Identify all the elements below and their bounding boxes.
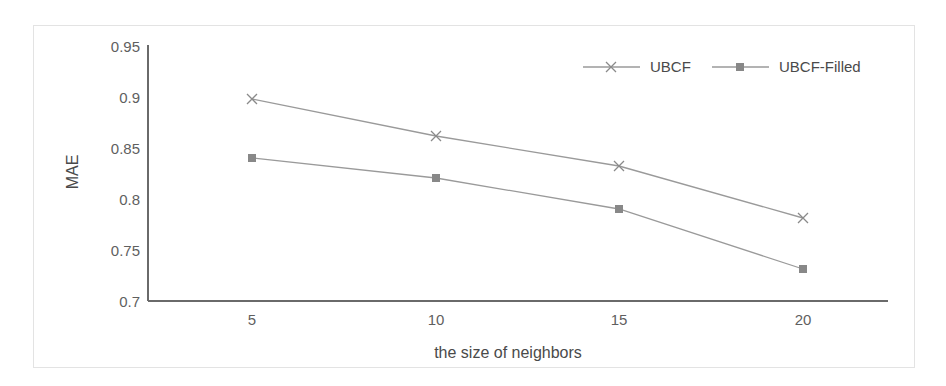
legend-entry-ubcf[interactable]: UBCF xyxy=(583,58,691,75)
x-tick-label-15: 15 xyxy=(611,311,628,328)
y-tick-label-0.9: 0.9 xyxy=(119,89,140,106)
series-ubcf-filled-markers xyxy=(248,154,807,273)
series-ubcf-line xyxy=(252,99,803,218)
y-tick-label-0.95: 0.95 xyxy=(111,38,140,55)
y-axis-title: MAE xyxy=(64,155,81,190)
y-tick-label-0.8: 0.8 xyxy=(119,191,140,208)
legend-marker-square-icon xyxy=(736,63,744,71)
figure-container: 0.95 0.9 0.85 0.8 0.75 0.7 5 10 15 20 MA… xyxy=(0,0,946,386)
x-tick-labels: 5 10 15 20 xyxy=(248,311,812,328)
series-ubcf-filled-line xyxy=(252,158,803,269)
y-tick-label-0.85: 0.85 xyxy=(111,140,140,157)
series-ubcf-filled xyxy=(248,154,807,273)
series-ubcf xyxy=(247,94,808,223)
series-ubcf-markers xyxy=(247,94,808,223)
marker-x-5 xyxy=(247,94,257,104)
chart-legend: UBCF UBCF-Filled xyxy=(583,58,861,75)
x-tick-label-5: 5 xyxy=(248,311,256,328)
legend-label-ubcf: UBCF xyxy=(650,58,691,75)
legend-label-ubcf-filled: UBCF-Filled xyxy=(779,58,861,75)
marker-square-20 xyxy=(799,265,807,273)
x-axis-title: the size of neighbors xyxy=(434,344,582,361)
x-tick-label-10: 10 xyxy=(428,311,445,328)
y-tick-labels: 0.95 0.9 0.85 0.8 0.75 0.7 xyxy=(111,38,140,310)
y-tick-label-0.75: 0.75 xyxy=(111,242,140,259)
marker-square-5 xyxy=(248,154,256,162)
legend-entry-ubcf-filled[interactable]: UBCF-Filled xyxy=(712,58,861,75)
axis-group xyxy=(148,45,888,301)
x-tick-label-20: 20 xyxy=(795,311,812,328)
marker-square-10 xyxy=(432,174,440,182)
marker-x-20 xyxy=(798,213,808,223)
marker-square-15 xyxy=(615,205,623,213)
line-chart: 0.95 0.9 0.85 0.8 0.75 0.7 5 10 15 20 MA… xyxy=(0,0,946,386)
y-tick-label-0.7: 0.7 xyxy=(119,293,140,310)
